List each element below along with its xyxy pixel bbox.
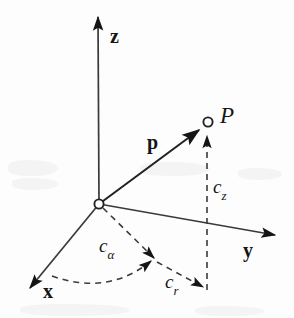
axis-y bbox=[99, 204, 275, 235]
vector-label-p: p bbox=[147, 132, 158, 152]
point-p-marker bbox=[203, 117, 212, 126]
component-label-cr-sub: r bbox=[173, 283, 178, 298]
component-cr-line bbox=[157, 262, 203, 287]
axis-label-z: z bbox=[110, 26, 119, 46]
axis-x bbox=[30, 204, 99, 288]
component-label-cz: cz bbox=[213, 177, 227, 200]
axis-z bbox=[98, 17, 99, 204]
origin-marker bbox=[94, 199, 103, 208]
component-calpha-arc bbox=[52, 261, 151, 283]
component-label-calpha: cα bbox=[99, 236, 114, 259]
axis-label-x: x bbox=[43, 281, 53, 301]
component-label-cr: cr bbox=[165, 272, 179, 295]
point-label-p: P bbox=[220, 104, 234, 127]
figure-canvas: z y x p P cz cr cα bbox=[0, 0, 294, 318]
diagram-vector-graphics bbox=[0, 0, 294, 318]
component-label-cz-sub: z bbox=[221, 188, 226, 203]
component-label-calpha-sub: α bbox=[107, 247, 114, 262]
axis-label-y: y bbox=[243, 240, 253, 260]
